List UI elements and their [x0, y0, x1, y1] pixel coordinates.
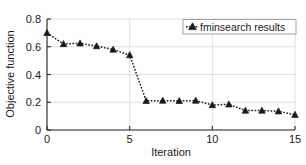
data-point-marker	[275, 108, 281, 114]
data-point-marker	[126, 52, 132, 58]
x-axis-ticks	[47, 126, 295, 130]
data-point-marker	[259, 107, 265, 113]
y-tick-label: 0.2	[26, 96, 41, 108]
gridlines	[47, 19, 295, 130]
y-axis-tick-labels: 00.20.40.60.8	[26, 13, 41, 136]
y-tick-label: 0	[35, 124, 41, 136]
x-tick-label: 15	[289, 133, 301, 145]
x-tick-label: 10	[206, 133, 218, 145]
legend-entry-label: fminsearch results	[200, 21, 285, 33]
figure-container: 00.20.40.60.8 051015 Objective function …	[0, 0, 306, 165]
y-axis-title: Objective function	[4, 30, 16, 117]
y-tick-label: 0.8	[26, 13, 41, 25]
data-point-marker	[44, 29, 50, 35]
y-tick-label: 0.4	[26, 69, 41, 81]
x-axis-title: Iteration	[151, 146, 191, 158]
data-point-marker	[93, 43, 99, 49]
x-tick-label: 0	[44, 133, 50, 145]
data-point-marker	[226, 101, 232, 107]
series-markers	[44, 29, 298, 117]
legend[interactable]: fminsearch results	[183, 20, 296, 35]
chart-canvas: 00.20.40.60.8 051015 Objective function …	[0, 0, 306, 165]
x-tick-label: 5	[127, 133, 133, 145]
data-series-fminsearch	[44, 29, 298, 117]
data-point-marker	[60, 41, 66, 47]
x-axis-tick-labels: 051015	[44, 133, 301, 145]
y-tick-label: 0.6	[26, 41, 41, 53]
